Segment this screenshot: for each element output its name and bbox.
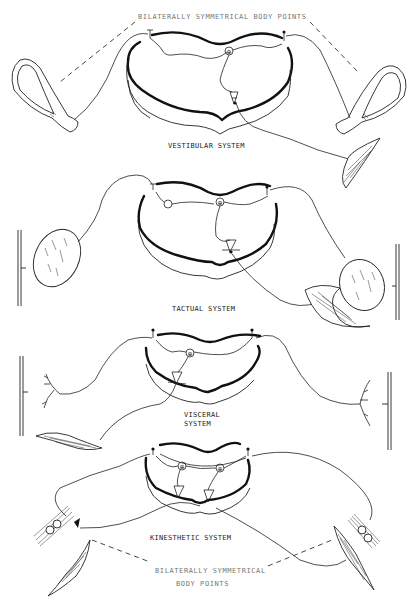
semicircular-canal-left: [12, 59, 78, 132]
label-visceral-line2: SYSTEM: [184, 420, 211, 428]
top-annotation: BILATERALLY SYMMETRICAL BODY POINTS: [138, 13, 307, 21]
panel-visceral: ⊕ VISCERAL SYSTEM: [20, 328, 391, 450]
muscle-visceral: [36, 433, 102, 450]
label-visceral-line1: VISCERAL: [184, 411, 220, 419]
semicircular-canal-right: [336, 66, 406, 134]
joint-receptor-right: [348, 514, 380, 548]
sensory-systems-diagram: BILATERALLY SYMMETRICAL BODY POINTS ⊕: [0, 0, 419, 605]
spinal-cord-vestibular: ⊕: [127, 30, 352, 160]
afferent-nerve-right: [286, 35, 350, 118]
svg-text:⊕: ⊕: [188, 350, 193, 357]
free-nerve-ending-left: [20, 356, 60, 436]
label-vestibular-system: VESTIBULAR SYSTEM: [168, 142, 245, 150]
arrowhead-icon: [74, 518, 80, 528]
bottom-annotation-line1: BILATERALLY SYMMETRICAL: [155, 567, 266, 575]
joint-receptor-left: [34, 506, 74, 546]
spinal-cord-tactual: ⊕: [138, 182, 318, 305]
panel-tactual: ⊕ TACTUAL SYSTEM: [18, 175, 399, 327]
svg-text:⊕: ⊕: [218, 199, 223, 206]
corpuscle-right: [332, 244, 399, 320]
svg-text:⊕: ⊕: [227, 48, 232, 55]
top-dashed-line-left: [60, 22, 135, 82]
muscle-kinesthetic-left: [48, 540, 90, 596]
muscle-vestibular: [342, 138, 380, 188]
spinal-cord-kinesthetic: ⊕ ⊕: [146, 443, 250, 514]
corpuscle-left: [18, 222, 90, 306]
label-kinesthetic-system: KINESTHETIC SYSTEM: [150, 534, 231, 542]
panel-vestibular: ⊕ VESTIBULAR SYSTEM: [12, 30, 406, 188]
afferent-nerve-right: [256, 335, 360, 404]
bottom-dashed-line-left: [92, 540, 150, 562]
bottom-annotation-line2: BODY POINTS: [176, 580, 229, 588]
free-nerve-ending-right: [360, 372, 391, 450]
label-tactual-system: TACTUAL SYSTEM: [172, 305, 235, 313]
afferent-nerve-left: [60, 337, 152, 394]
spinal-cord-visceral: ⊕: [146, 328, 260, 404]
afferent-nerve-right: [270, 187, 345, 258]
